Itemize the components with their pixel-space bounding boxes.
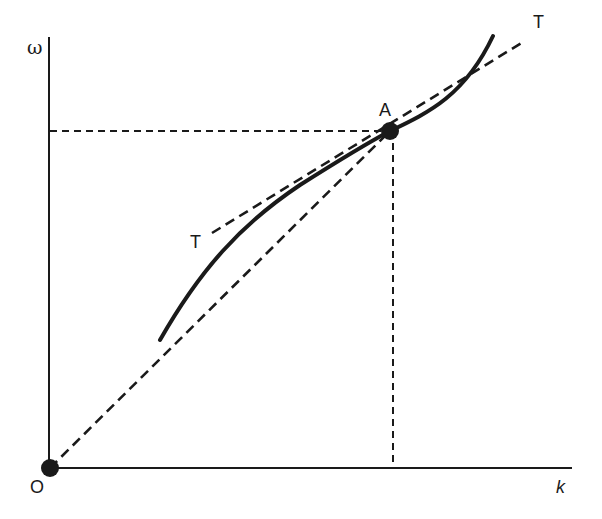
origin-dot xyxy=(41,459,59,477)
x-axis-label: k xyxy=(556,478,565,496)
point-a-label: A xyxy=(379,101,391,119)
ray-oa xyxy=(50,131,390,468)
omega-curve xyxy=(160,36,493,340)
y-axis-label: ω xyxy=(27,38,43,57)
origin-label: O xyxy=(30,478,44,496)
tangent-line xyxy=(212,42,523,233)
tangent-label-upper: T xyxy=(533,13,544,31)
diagram-canvas xyxy=(0,0,602,519)
tangent-label-lower: T xyxy=(190,233,201,251)
point-a-dot xyxy=(381,122,399,140)
